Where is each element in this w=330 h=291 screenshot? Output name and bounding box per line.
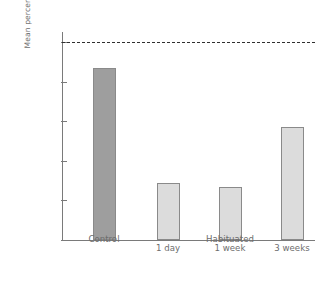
y-tick-mark: [61, 161, 67, 162]
y-tick-mark: [61, 82, 67, 83]
x-tick-label: 3 weeks: [252, 244, 330, 253]
y-tick-mark: [61, 121, 67, 122]
group-label: Habituated: [180, 235, 280, 244]
group-label: Control: [54, 235, 154, 244]
reference-line: [62, 42, 315, 43]
bar: [93, 68, 116, 240]
y-tick-mark: [61, 200, 67, 201]
bar: [157, 183, 180, 240]
bar: [219, 187, 242, 240]
y-axis-line: [62, 32, 63, 241]
bar-chart-figure: Mean percent of connections 020406080100…: [0, 0, 330, 291]
plot-area: 020406080100 1 day1 week3 weeks: [62, 32, 315, 241]
y-axis-label: Mean percent of connections: [22, 0, 34, 67]
bar: [281, 127, 304, 240]
